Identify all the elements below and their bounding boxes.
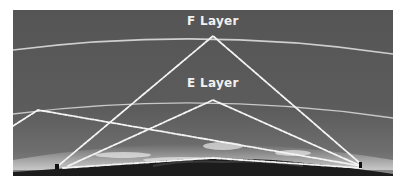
e-layer-label: E Layer — [187, 76, 239, 90]
transmitter-icon — [55, 164, 59, 169]
ionosphere-diagram — [13, 10, 393, 176]
f-layer-label: F Layer — [187, 14, 239, 28]
receiver-icon — [359, 162, 362, 168]
